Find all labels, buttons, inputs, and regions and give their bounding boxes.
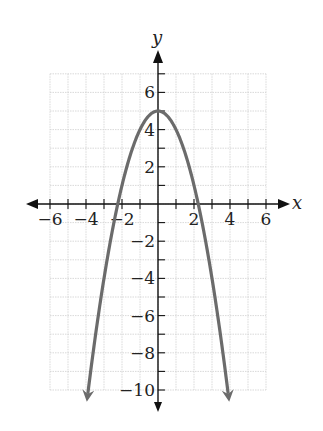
x-axis-label: x	[292, 192, 302, 213]
y-tick-label: −2	[130, 231, 155, 251]
x-tick-label: 6	[261, 209, 272, 229]
y-tick-label: −8	[130, 343, 155, 363]
y-tick-label: 6	[144, 82, 155, 102]
x-tick-label: −4	[73, 209, 98, 229]
x-tick-label: −6	[37, 209, 62, 229]
y-axis-label: y	[151, 27, 163, 48]
x-tick-label: 4	[225, 209, 236, 229]
y-axis-arrow-down	[154, 402, 162, 412]
axes	[26, 50, 290, 412]
x-tick-label: 2	[189, 209, 200, 229]
y-tick-label: −4	[130, 268, 155, 288]
y-tick-label: −6	[130, 306, 155, 326]
parabola-chart: −6−4−2246642−2−4−6−8−10 x y	[0, 0, 323, 431]
y-tick-label: 4	[144, 120, 155, 140]
y-axis-arrow-up	[153, 50, 163, 63]
x-axis-arrow-left	[26, 199, 38, 209]
y-tick-label: −10	[119, 380, 155, 400]
y-tick-label: 2	[144, 157, 155, 177]
x-axis-arrow-right	[278, 199, 290, 209]
